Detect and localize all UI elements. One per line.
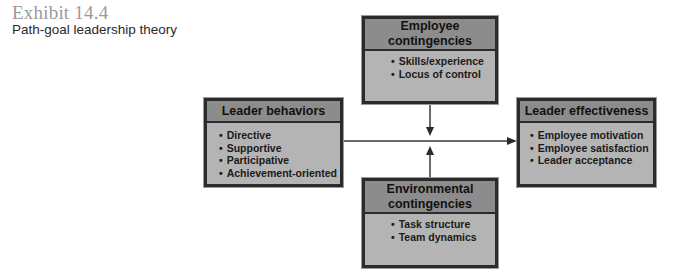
list-item: Directive xyxy=(219,129,340,142)
list-item: Employee satisfaction xyxy=(530,142,653,155)
leader-behaviors-title: Leader behaviors xyxy=(222,104,326,119)
employee-contingencies-box: Employee contingencies Skills/experience… xyxy=(362,16,498,104)
employee-contingencies-header: Employee contingencies xyxy=(365,19,495,51)
list-item: Participative xyxy=(219,154,340,167)
environmental-contingencies-list: Task structure Team dynamics xyxy=(365,214,495,243)
list-item: Locus of control xyxy=(391,68,495,81)
environmental-contingencies-header: Environmental contingencies xyxy=(365,181,495,214)
employee-contingencies-list: Skills/experience Locus of control xyxy=(365,51,495,80)
arrow-head-up-icon xyxy=(426,146,434,155)
leader-effectiveness-header: Leader effectiveness xyxy=(520,101,653,123)
list-item: Task structure xyxy=(391,218,495,231)
environmental-contingencies-box: Environmental contingencies Task structu… xyxy=(362,178,498,268)
list-item: Skills/experience xyxy=(391,55,495,68)
leader-behaviors-list: Directive Supportive Participative Achie… xyxy=(207,123,340,179)
employee-contingencies-title: Employee contingencies xyxy=(380,19,480,49)
environmental-contingencies-title: Environmental contingencies xyxy=(375,182,485,212)
leader-effectiveness-title: Leader effectiveness xyxy=(525,104,649,119)
list-item: Team dynamics xyxy=(391,231,495,244)
list-item: Employee motivation xyxy=(530,129,653,142)
leader-effectiveness-list: Employee motivation Employee satisfactio… xyxy=(520,123,653,167)
list-item: Achievement-oriented xyxy=(219,167,340,180)
list-item: Leader acceptance xyxy=(530,154,653,167)
arrow-head-down-icon xyxy=(426,127,434,136)
leader-effectiveness-box: Leader effectiveness Employee motivation… xyxy=(517,98,656,187)
list-item: Supportive xyxy=(219,142,340,155)
leader-behaviors-box: Leader behaviors Directive Supportive Pa… xyxy=(204,98,343,187)
leader-behaviors-header: Leader behaviors xyxy=(207,101,340,123)
arrow-head-right-icon xyxy=(507,137,517,145)
